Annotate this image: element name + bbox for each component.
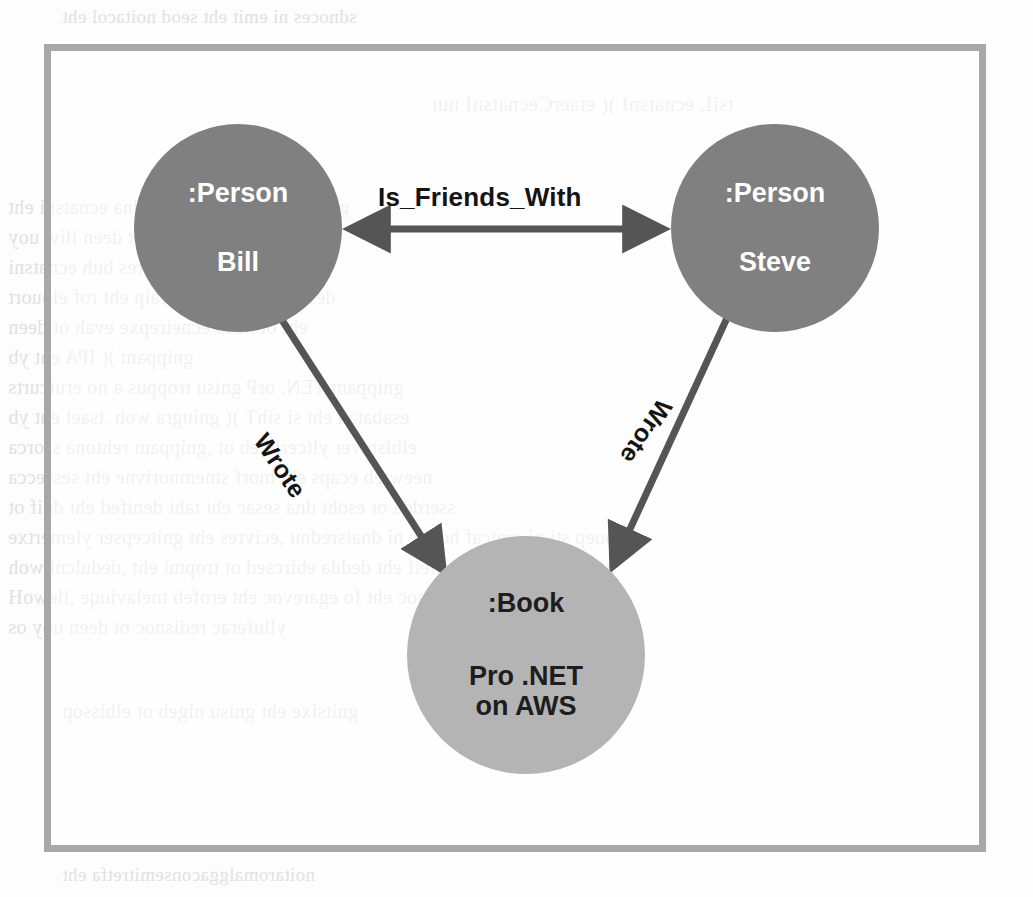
node-type-label: :Person <box>725 179 826 209</box>
node-type-label: :Person <box>188 179 289 209</box>
node-name-label: Bill <box>217 247 259 277</box>
graph-node-steve[interactable]: :Person Steve <box>671 124 879 332</box>
bleed-through-line: sdnoces ni emit eht seod noitacol eht <box>62 6 356 28</box>
graph-node-bill[interactable]: :Person Bill <box>134 124 342 332</box>
node-name-label: Pro .NET on AWS <box>469 661 583 721</box>
scanned-page: sdnoces ni emit eht seod noitacol ehttsi… <box>0 0 1033 897</box>
bleed-through-line: noitaromalggaconsemitretfa eht <box>62 864 315 886</box>
node-name-line-2: on AWS <box>475 691 576 721</box>
edge-label-is-friends-with: Is_Friends_With <box>378 182 582 213</box>
graph-node-book[interactable]: :Book Pro .NET on AWS <box>407 536 645 774</box>
node-type-label: :Book <box>488 589 565 619</box>
node-name-label: Steve <box>739 247 811 277</box>
node-name-line-1: Pro .NET <box>469 661 583 691</box>
